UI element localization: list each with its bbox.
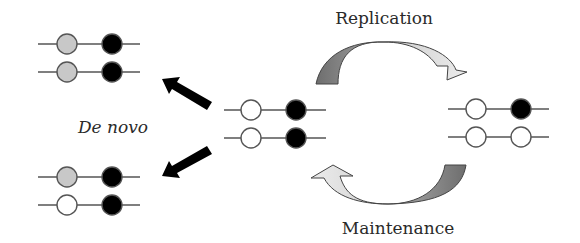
cpg-site-methylated-icon [511, 99, 531, 119]
cpg-site-unmethylated-icon [466, 127, 486, 147]
cpg-site-newly-methylated-icon [57, 167, 77, 187]
cpg-site-unmethylated-icon [241, 128, 261, 148]
dna-molecule-center [224, 100, 326, 148]
cpg-site-methylated-icon [102, 195, 122, 215]
replication-arrow [316, 42, 467, 84]
maintenance-arrow [311, 165, 466, 204]
dna-strand [448, 127, 549, 147]
de-novo-arrow-down [162, 146, 212, 178]
maintenance-label: Maintenance [342, 218, 454, 238]
dna-strand [448, 99, 549, 119]
curved-arrow-left-icon [311, 165, 466, 204]
dna-strand [224, 100, 326, 120]
dna-strand [38, 195, 140, 215]
cpg-site-methylated-icon [286, 128, 306, 148]
cpg-site-methylated-icon [286, 100, 306, 120]
dna-methylation-diagram: De novo Replication Maintenance [0, 0, 580, 243]
de-novo-label: De novo [77, 117, 148, 137]
cpg-site-unmethylated-icon [466, 99, 486, 119]
cpg-site-methylated-icon [102, 167, 122, 187]
dna-strand [38, 34, 140, 54]
arrow-down-left-icon [162, 146, 212, 178]
cpg-site-unmethylated-icon [511, 127, 531, 147]
dna-molecule-replicated [448, 99, 549, 147]
dna-strand [38, 167, 140, 187]
dna-molecule-de-novo-top [38, 34, 140, 82]
cpg-site-unmethylated-icon [241, 100, 261, 120]
replication-label: Replication [335, 8, 433, 28]
curved-arrow-right-icon [316, 42, 467, 84]
cpg-site-methylated-icon [102, 62, 122, 82]
cpg-site-methylated-icon [102, 34, 122, 54]
arrow-up-left-icon [162, 77, 212, 110]
dna-molecule-de-novo-bottom [38, 167, 140, 215]
de-novo-arrow-up [162, 77, 212, 110]
cpg-site-newly-methylated-icon [57, 62, 77, 82]
dna-strand [38, 62, 140, 82]
cpg-site-unmethylated-icon [57, 195, 77, 215]
cpg-site-newly-methylated-icon [57, 34, 77, 54]
dna-strand [224, 128, 326, 148]
